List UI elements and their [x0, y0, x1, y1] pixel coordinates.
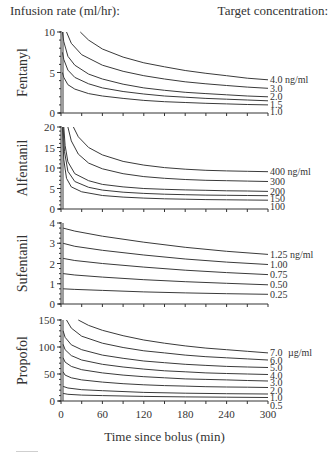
- y-tick-label: 0: [50, 298, 56, 310]
- panel-ylabel: Fentanyl: [15, 48, 30, 97]
- y-tick-label: 10: [44, 26, 56, 38]
- y-tick-label: 0: [50, 203, 56, 215]
- curve-0-75-ng-ml: [63, 258, 268, 274]
- footer-rule: [16, 451, 38, 452]
- curve-1-00-ng-ml: [63, 243, 268, 264]
- panel-alfentanil: 05101520Alfentanil400 ng/ml300200150100: [15, 121, 311, 215]
- y-tick-label: 0: [50, 395, 56, 407]
- curve-2-0-ng-ml: [62, 32, 268, 97]
- x-tick-label: 300: [260, 408, 277, 420]
- curve-3-0-ng-ml: [67, 32, 269, 88]
- unit-label: µg/ml: [288, 347, 312, 358]
- curve-1-25-ng-ml: [63, 228, 268, 254]
- x-tick-label: 60: [97, 408, 109, 420]
- y-tick-label: 2: [50, 258, 56, 270]
- panel-ylabel: Sufentanil: [15, 235, 30, 293]
- series-label: 0.25: [270, 289, 288, 300]
- panel-sufentanil: 01234Sufentanil1.25 ng/ml1.000.750.500.2…: [15, 217, 314, 310]
- infusion-rate-chart: 0510Fentanyl4.0 ng/ml3.02.01.51.00510152…: [0, 0, 330, 456]
- y-tick-label: 20: [44, 121, 56, 133]
- curve-200-ng-ml: [64, 127, 268, 191]
- y-tick-label: 5: [50, 67, 56, 79]
- panel-ylabel: Propofol: [15, 336, 30, 385]
- y-tick-label: 4: [50, 217, 56, 229]
- y-tick-label: 3: [50, 237, 56, 249]
- series-label: 1.0: [270, 106, 283, 117]
- y-tick-label: 15: [44, 142, 56, 154]
- x-tick-labels: 060120180240300: [58, 408, 277, 420]
- curve-7-0-g-ml: [78, 320, 268, 353]
- y-tick-label: 100: [39, 341, 56, 353]
- x-tick-label: 0: [58, 408, 64, 420]
- x-tick-label: 240: [218, 408, 235, 420]
- y-tick-label: 50: [44, 368, 56, 380]
- x-axis-title: Time since bolus (min): [104, 429, 225, 444]
- y-tick-label: 150: [39, 314, 56, 326]
- curve-4-0-g-ml: [63, 344, 268, 374]
- curve-300-ng-ml: [68, 127, 268, 182]
- y-tick-label: 0: [50, 107, 56, 119]
- curve-3-0-g-ml: [63, 358, 268, 381]
- series-label: 100: [270, 201, 285, 212]
- curve-0-25-ng-ml: [63, 289, 268, 295]
- curve-150-ng-ml: [63, 127, 268, 196]
- y-tick-label: 5: [50, 183, 56, 195]
- curve-400-ng-ml: [73, 127, 268, 172]
- x-tick-label: 120: [136, 408, 153, 420]
- y-tick-label: 1: [50, 278, 56, 290]
- y-tick-label: 10: [44, 162, 56, 174]
- x-tick-label: 180: [177, 408, 194, 420]
- panel-ylabel: Alfentanil: [15, 140, 30, 197]
- panel-fentanyl: 0510Fentanyl4.0 ng/ml3.02.01.51.0: [15, 26, 309, 119]
- curve-5-0-g-ml: [63, 331, 268, 368]
- panel-propofol: 050100150Propofol7.06.05.04.03.02.01.00.…: [15, 314, 312, 411]
- curve-4-0-ng-ml: [80, 32, 268, 80]
- curve-0-50-ng-ml: [63, 274, 268, 285]
